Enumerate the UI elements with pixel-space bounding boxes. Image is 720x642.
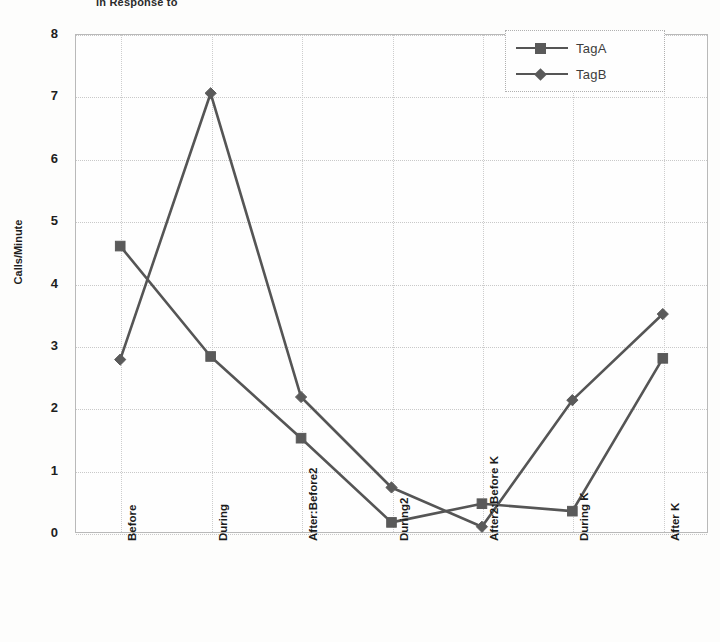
series-line-taga: [120, 246, 663, 522]
legend-label-taga: TagA: [576, 41, 607, 56]
x-axis-tick-text: During2: [398, 498, 410, 541]
y-axis-tick-label: 1: [18, 463, 58, 478]
x-axis-tick-text: After K: [669, 503, 681, 541]
chart-data-layer: [75, 34, 708, 533]
chart-legend: TagA TagB: [505, 30, 665, 92]
y-axis-tick-label: 6: [18, 151, 58, 166]
y-axis-tick-label: 8: [18, 26, 58, 41]
legend-line-tagb: [516, 73, 568, 75]
series-line-tagb: [120, 93, 663, 527]
x-axis-tick-text: After2:Before K: [488, 456, 500, 541]
legend-entry-taga: TagA: [516, 37, 607, 59]
gridline-horizontal: [76, 534, 707, 535]
y-axis-tick-label: 2: [18, 400, 58, 415]
x-axis-tick-text: Before: [126, 505, 138, 541]
data-point-square: [658, 354, 668, 364]
data-point-square: [206, 352, 216, 362]
legend-label-tagb: TagB: [576, 67, 607, 82]
data-point-square: [568, 506, 578, 516]
chart-title: in Response to: [96, 0, 616, 8]
square-marker-icon: [535, 43, 546, 54]
legend-line-taga: [516, 47, 568, 49]
x-axis-tick-text: During K: [578, 492, 590, 541]
diamond-marker-icon: [534, 68, 547, 81]
data-point-square: [477, 499, 487, 509]
legend-entry-tagb: TagB: [516, 63, 607, 85]
y-axis-tick-label: 5: [18, 213, 58, 228]
y-axis-tick-label: 7: [18, 88, 58, 103]
data-point-diamond: [115, 354, 126, 365]
x-axis-tick-labels: BeforeDuringAfter:Before2During2After2:B…: [75, 541, 708, 642]
data-point-square: [296, 433, 306, 443]
data-point-square: [115, 241, 125, 251]
data-point-square: [387, 518, 397, 528]
y-axis-tick-label: 4: [18, 276, 58, 291]
x-axis-tick-text: During: [217, 504, 229, 541]
y-axis-tick-label: 0: [18, 525, 58, 540]
x-axis-tick-text: After:Before2: [307, 468, 319, 542]
y-axis-tick-label: 3: [18, 338, 58, 353]
data-point-diamond: [205, 88, 216, 99]
